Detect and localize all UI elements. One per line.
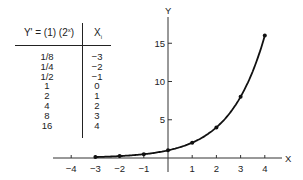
exponential-chart: XY−4−3−2−1123451015 bbox=[0, 0, 303, 180]
data-point bbox=[93, 155, 97, 159]
x-tick-label: −3 bbox=[90, 163, 101, 174]
x-tick-label: 3 bbox=[238, 163, 243, 174]
data-point bbox=[118, 154, 122, 158]
x-tick-label: 2 bbox=[214, 163, 219, 174]
x-tick-label: −1 bbox=[138, 163, 149, 174]
curve bbox=[93, 34, 266, 159]
y-tick-label: 5 bbox=[160, 114, 165, 125]
data-point bbox=[142, 152, 146, 156]
x-tick-label: −4 bbox=[66, 163, 77, 174]
x-axis-label: X bbox=[285, 153, 292, 164]
y-axis-label: Y bbox=[165, 5, 172, 16]
y-tick-label: 15 bbox=[154, 38, 165, 49]
x-tick-label: 4 bbox=[262, 163, 267, 174]
data-point bbox=[263, 34, 267, 38]
data-point bbox=[214, 125, 218, 129]
x-tick-label: −2 bbox=[114, 163, 125, 174]
data-point bbox=[166, 148, 170, 152]
data-point bbox=[239, 95, 243, 99]
x-tick-label: 1 bbox=[190, 163, 195, 174]
y-tick-label: 10 bbox=[154, 76, 165, 87]
data-point bbox=[190, 141, 194, 145]
